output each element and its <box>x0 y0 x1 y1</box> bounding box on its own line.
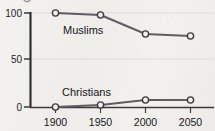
chart-canvas: 100 50 0 1900 1950 2000 2050 <box>0 0 215 131</box>
y-tick-label-50: 50 <box>11 54 23 65</box>
x-tick-label-1900: 1900 <box>44 116 68 128</box>
series-label-christians: Christians <box>62 86 111 98</box>
x-tick-label-2050: 2050 <box>179 116 203 128</box>
series-christians-line <box>56 100 191 107</box>
cropped-marker-artifact <box>23 0 30 2</box>
series-label-muslims: Muslims <box>63 24 104 36</box>
series-christians-point-2000 <box>142 97 148 103</box>
series-christians-point-1950 <box>97 102 103 108</box>
line-chart: 100 50 0 1900 1950 2000 2050 <box>0 0 215 131</box>
y-axis: 100 50 0 <box>5 8 31 113</box>
series-muslims-point-1900 <box>52 10 58 16</box>
y-tick-label-100: 100 <box>5 8 22 19</box>
series-muslims-point-2000 <box>142 31 148 37</box>
series-muslims-point-2050 <box>187 33 193 39</box>
y-tick-label-0: 0 <box>16 102 22 113</box>
x-tick-label-2000: 2000 <box>134 116 158 128</box>
series-christians-point-2050 <box>187 97 193 103</box>
series-christians-point-1900 <box>52 104 58 110</box>
series-muslims-point-1950 <box>97 12 103 18</box>
x-tick-label-1950: 1950 <box>89 116 113 128</box>
